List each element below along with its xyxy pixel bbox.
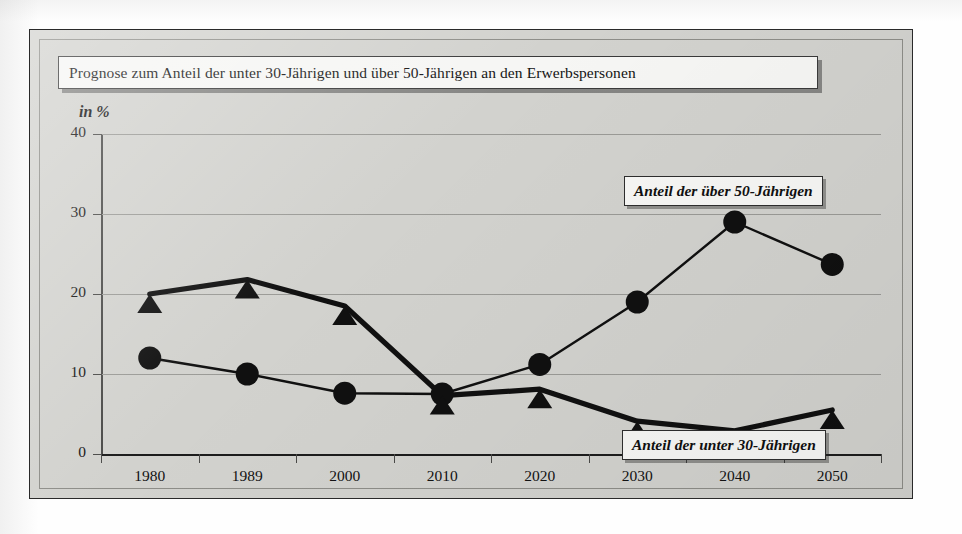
data-point-ueber-50-2030: [626, 291, 649, 314]
legend-label-unter-30: Anteil der unter 30-Jährigen: [622, 430, 826, 460]
data-point-ueber-50-1980: [138, 347, 161, 370]
legend-text-unter-30: Anteil der unter 30-Jährigen: [632, 436, 816, 454]
data-point-unter-30-1980: [137, 294, 162, 313]
data-point-ueber-50-2000: [333, 382, 356, 405]
data-point-ueber-50-2040: [723, 211, 746, 234]
plot-area: 010203040 198019892000201020202030204020…: [30, 30, 914, 500]
series-markers-unter-30: [138, 211, 844, 406]
series-line-ueber-50: [150, 280, 833, 431]
legend-text-ueber-50: Anteil der über 50-Jährigen: [634, 182, 813, 200]
data-point-ueber-50-2020: [528, 353, 551, 376]
data-point-ueber-50-1989: [236, 363, 259, 386]
legend-label-ueber-50: Anteil der über 50-Jährigen: [624, 176, 823, 206]
screenshot-page: Prognose zum Anteil der unter 30-Jährige…: [0, 0, 962, 534]
chart-panel: Prognose zum Anteil der unter 30-Jährige…: [29, 29, 913, 499]
data-point-ueber-50-2050: [821, 253, 844, 276]
